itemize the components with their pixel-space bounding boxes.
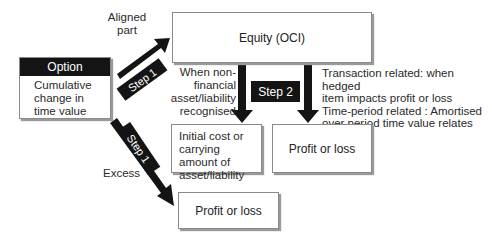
- note-line-2: item impacts profit or loss: [322, 92, 492, 105]
- excess-label: Excess: [103, 167, 140, 180]
- note-line-1: Transaction related: when hedged: [322, 67, 492, 92]
- initial-cost-label: Initial cost or carrying amount of asset…: [172, 125, 261, 182]
- step2-badge: Step 2: [251, 81, 300, 102]
- when-non-financial-label: When non-financial asset/liability recog…: [166, 66, 236, 118]
- equity-oci-box: Equity (OCI): [172, 12, 372, 63]
- profit-loss-right-box: Profit or loss: [272, 124, 372, 173]
- step2-note: Transaction related: when hedged item im…: [322, 67, 492, 130]
- option-header: Option: [20, 58, 110, 76]
- equity-oci-label: Equity (OCI): [239, 31, 305, 45]
- initial-cost-box: Initial cost or carrying amount of asset…: [171, 124, 262, 173]
- note-line-3: Time-period related : Amortised: [322, 105, 492, 118]
- profit-loss-right-label: Profit or loss: [289, 142, 356, 156]
- step2-label: Step 2: [258, 85, 293, 99]
- profit-loss-bottom-box: Profit or loss: [178, 192, 279, 229]
- profit-loss-bottom-label: Profit or loss: [195, 204, 262, 218]
- down-arrow-profit-loss: [297, 63, 319, 123]
- option-header-label: Option: [47, 60, 82, 74]
- option-box: Option Cumulative change in time value: [19, 57, 111, 119]
- option-body: Cumulative change in time value: [20, 76, 110, 118]
- aligned-part-label: Aligned part: [105, 11, 149, 37]
